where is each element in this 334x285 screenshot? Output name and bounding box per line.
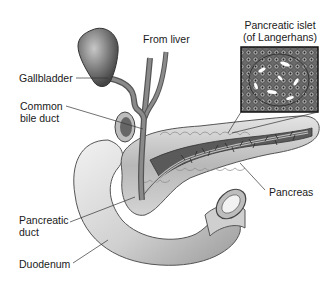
label-pancreatic-islet-line1: Pancreatic islet <box>239 19 321 31</box>
label-gallbladder: Gallbladder <box>19 72 73 84</box>
pancreas-leader <box>240 163 265 190</box>
islet-inset <box>241 47 318 112</box>
label-pancreas: Pancreas <box>269 186 313 198</box>
label-pancreatic-duct-line2: duct <box>19 226 39 238</box>
pancreas-diagram: From liver Gallbladder Common bile duct … <box>0 0 334 285</box>
duodenum-leader <box>73 240 108 263</box>
label-common-bile-duct-line1: Common <box>20 100 63 112</box>
label-pancreatic-duct-line1: Pancreatic <box>19 214 69 226</box>
label-duodenum: Duodenum <box>19 258 70 270</box>
label-common-bile-duct-line2: bile duct <box>20 112 59 124</box>
label-pancreatic-islet-line2: (of Langerhans) <box>239 31 321 43</box>
label-from-liver: From liver <box>143 33 190 45</box>
